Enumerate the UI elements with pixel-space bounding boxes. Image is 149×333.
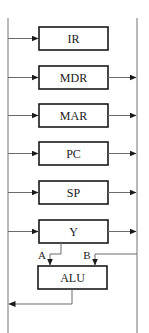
register-mdr: MDR (8, 66, 136, 89)
register-y: Y (8, 220, 136, 243)
mdr-label: MDR (60, 71, 87, 85)
sp-label: SP (67, 186, 81, 200)
y-to-alu-a-wire (50, 243, 61, 265)
alu-port-a-label: A (38, 249, 46, 261)
bus-to-alu-b-wire (95, 254, 137, 265)
mar-label: MAR (60, 109, 87, 123)
register-pc: PC (8, 142, 136, 165)
y-label: Y (69, 225, 78, 239)
cpu-datapath-diagram: IR MDR MAR PC SP Y A B (0, 0, 149, 333)
alu: ALU (38, 266, 107, 289)
ir-label: IR (68, 32, 80, 46)
pc-label: PC (66, 147, 81, 161)
register-sp: SP (8, 181, 136, 204)
alu-port-b-label: B (83, 249, 90, 261)
register-ir: IR (8, 27, 108, 50)
alu-output-wire (9, 289, 72, 304)
register-mar: MAR (8, 104, 136, 127)
alu-label: ALU (60, 271, 85, 285)
